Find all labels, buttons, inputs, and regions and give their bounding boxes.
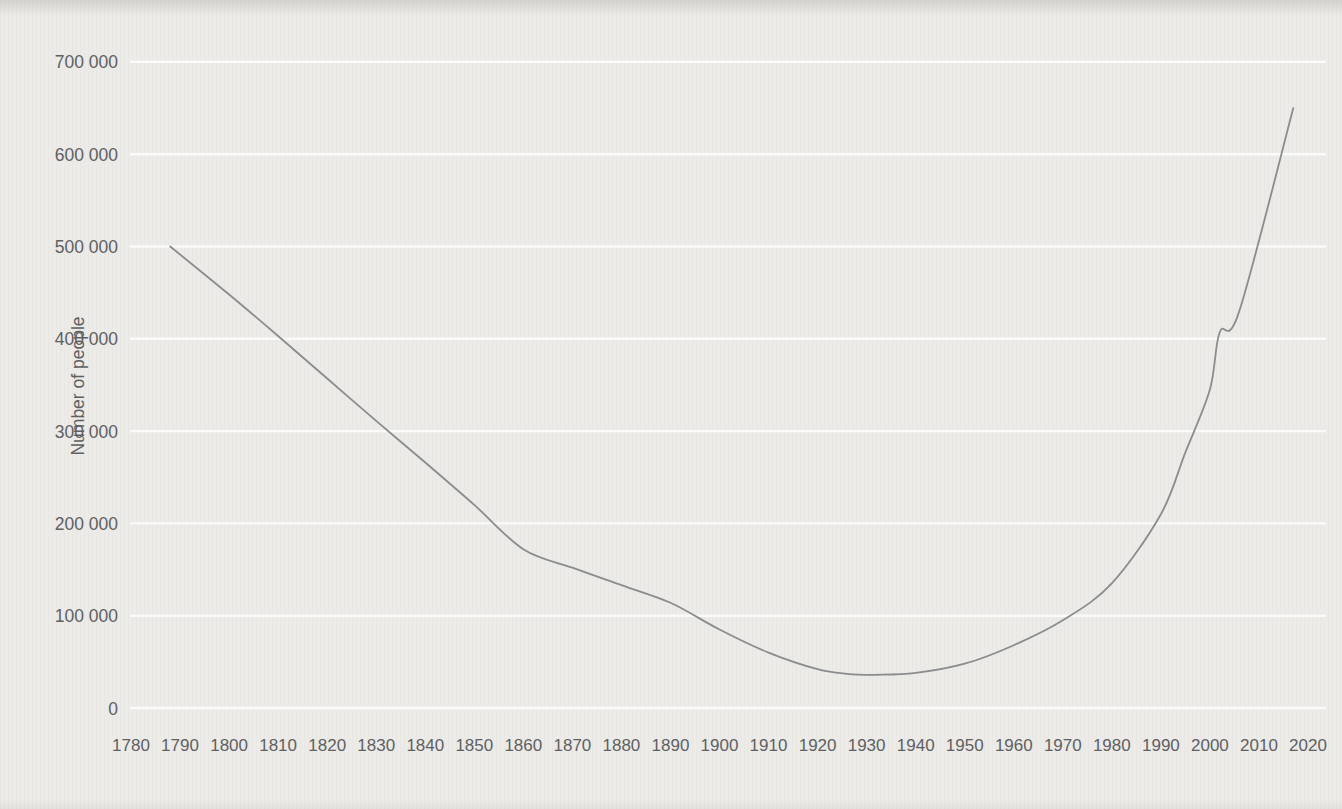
x-tick-label-1850: 1850 [455, 736, 493, 755]
x-tick-label-1870: 1870 [553, 736, 591, 755]
x-tick-label-1920: 1920 [799, 736, 837, 755]
x-tick-label-1820: 1820 [308, 736, 346, 755]
x-tick-label-1990: 1990 [1142, 736, 1180, 755]
x-tick-label-1940: 1940 [897, 736, 935, 755]
x-tick-label-1840: 1840 [406, 736, 444, 755]
x-tick-label-1830: 1830 [357, 736, 395, 755]
x-tick-label-1800: 1800 [210, 736, 248, 755]
x-tick-label-1930: 1930 [848, 736, 886, 755]
y-tick-label-200000: 200 000 [55, 514, 119, 534]
y-tick-label-600000: 600 000 [55, 145, 119, 165]
x-tick-label-1890: 1890 [652, 736, 690, 755]
x-tick-label-1950: 1950 [946, 736, 984, 755]
number-of-people-line-chart: 0100 000200 000300 000400 000500 000600 … [0, 0, 1342, 809]
x-tick-label-1790: 1790 [161, 736, 199, 755]
x-tick-label-1970: 1970 [1044, 736, 1082, 755]
scanned-chart-page: 0100 000200 000300 000400 000500 000600 … [0, 0, 1342, 809]
y-tick-label-700000: 700 000 [55, 52, 119, 72]
x-tick-label-1810: 1810 [259, 736, 297, 755]
x-tick-label-2000: 2000 [1191, 736, 1229, 755]
x-tick-label-1780: 1780 [112, 736, 150, 755]
x-tick-label-1880: 1880 [602, 736, 640, 755]
x-tick-label-1960: 1960 [995, 736, 1033, 755]
x-tick-label-1910: 1910 [750, 736, 788, 755]
y-axis-title: Number of people [68, 316, 88, 455]
x-tick-label-1900: 1900 [701, 736, 739, 755]
x-tick-label-1980: 1980 [1093, 736, 1131, 755]
x-tick-label-1860: 1860 [504, 736, 542, 755]
y-tick-label-100000: 100 000 [55, 606, 119, 626]
y-tick-label-0: 0 [108, 699, 118, 719]
series-line-0 [170, 108, 1293, 675]
x-tick-label-2020: 2020 [1289, 736, 1327, 755]
x-tick-label-2010: 2010 [1240, 736, 1278, 755]
y-tick-label-500000: 500 000 [55, 237, 119, 257]
